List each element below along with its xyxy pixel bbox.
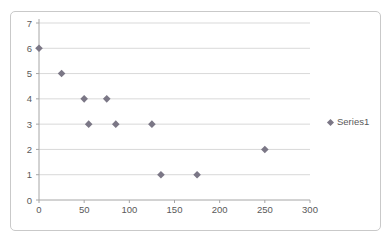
- data-point-marker: [157, 171, 165, 179]
- y-tick-label: 5: [27, 68, 32, 79]
- data-point-marker: [58, 70, 66, 78]
- legend-label: Series1: [337, 115, 369, 129]
- legend[interactable]: Series1: [326, 115, 371, 129]
- x-tick-label: 300: [302, 204, 318, 215]
- y-tick-label: 6: [27, 43, 32, 54]
- x-tick-label: 0: [36, 204, 41, 215]
- x-tick-label: 100: [121, 204, 137, 215]
- y-tick-label: 3: [27, 119, 32, 130]
- x-tick-label: 250: [257, 204, 273, 215]
- data-point-marker: [112, 120, 120, 128]
- x-tick-label: 150: [167, 204, 183, 215]
- data-point-marker: [35, 44, 43, 52]
- data-point-marker: [85, 120, 93, 128]
- y-tick-label: 0: [27, 195, 32, 206]
- data-point-marker: [193, 171, 201, 179]
- y-tick-label: 2: [27, 144, 32, 155]
- data-point-marker: [148, 120, 156, 128]
- y-tick-label: 1: [27, 169, 32, 180]
- y-tick-label: 7: [27, 18, 32, 29]
- data-point-marker: [80, 95, 88, 103]
- x-tick-label: 200: [212, 204, 228, 215]
- data-point-marker: [103, 95, 111, 103]
- y-tick-label: 4: [27, 93, 32, 104]
- chart-canvas: 01234567050100150200250300 Series1: [0, 0, 391, 239]
- data-point-marker: [261, 146, 269, 154]
- x-tick-label: 50: [79, 204, 90, 215]
- legend-marker-icon: [327, 118, 334, 125]
